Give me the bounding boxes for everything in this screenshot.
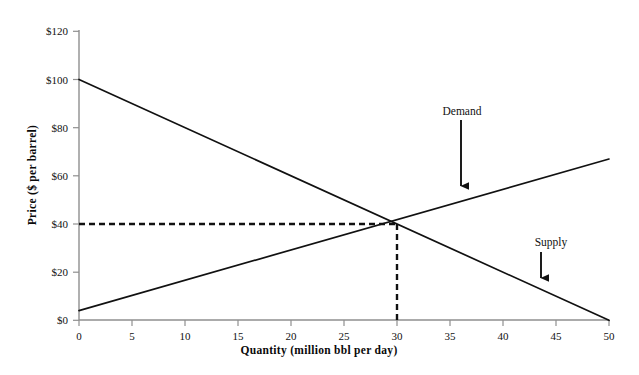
x-tick-label-45: 45 (551, 330, 562, 342)
supply-series-label: Supply (535, 236, 568, 248)
y-tick-label-100: $100 (30, 74, 68, 86)
chart-plot-area (0, 0, 639, 375)
x-tick-label-40: 40 (498, 330, 509, 342)
y-tick-label-0: $0 (30, 314, 68, 326)
x-tick-label-20: 20 (286, 330, 297, 342)
x-tick-label-35: 35 (445, 330, 456, 342)
x-tick-label-5: 5 (129, 330, 135, 342)
x-tick-label-10: 10 (180, 330, 191, 342)
y-tick-label-120: $120 (30, 25, 68, 37)
y-axis-title: Price ($ per barrel) (26, 125, 38, 225)
x-tick-label-15: 15 (233, 330, 244, 342)
x-tick-label-0: 0 (76, 330, 82, 342)
demand-curve-line (79, 159, 609, 311)
y-tick-label-20: $20 (30, 266, 68, 278)
x-axis-ticks (79, 320, 609, 326)
supply-demand-chart: $120 $100 $80 $60 $40 $20 $0 0 5 10 15 2… (0, 0, 639, 375)
x-tick-label-25: 25 (339, 330, 350, 342)
demand-series-label: Demand (443, 105, 482, 117)
y-axis-ticks (73, 31, 79, 320)
supply-curve-line (79, 80, 609, 321)
x-tick-label-30: 30 (392, 330, 403, 342)
x-tick-label-50: 50 (604, 330, 615, 342)
x-axis-title: Quantity (million bbl per day) (240, 344, 397, 356)
